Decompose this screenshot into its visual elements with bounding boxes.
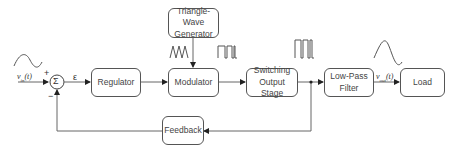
- sine-output-wave: [374, 41, 402, 65]
- sine-input-wave: [14, 55, 42, 67]
- triangle-gen-label: Triangle-WaveGenerator: [169, 6, 218, 40]
- error-label: ε: [73, 72, 77, 82]
- modulator-label: Modulator: [175, 77, 213, 88]
- load-label: Load: [413, 77, 432, 88]
- switching-label: SwitchingOutput Stage: [247, 65, 297, 99]
- minus-sign: −: [48, 91, 53, 101]
- input-signal-label: vin(t): [17, 72, 32, 83]
- regulator-label: Regulator: [98, 77, 135, 88]
- load-block[interactable]: Load: [400, 68, 445, 97]
- lowpass-label: Low-PassFilter: [330, 71, 367, 94]
- summer-sigma: Σ: [53, 76, 59, 86]
- triangle-wave-generator-block[interactable]: Triangle-WaveGenerator: [168, 8, 219, 38]
- triangle-wave: [170, 46, 188, 58]
- feedback-block[interactable]: Feedback: [162, 116, 204, 145]
- output-signal-label: vout(t): [376, 72, 394, 83]
- low-pass-filter-block[interactable]: Low-PassFilter: [324, 68, 374, 97]
- pwm-switching-wave: [295, 40, 314, 58]
- switching-output-stage-block[interactable]: SwitchingOutput Stage: [246, 68, 298, 97]
- pwm-modulator-wave: [218, 46, 237, 58]
- regulator-block[interactable]: Regulator: [91, 68, 141, 97]
- feedback-label: Feedback: [164, 125, 201, 136]
- junction-dot: [309, 80, 312, 83]
- modulator-block[interactable]: Modulator: [168, 68, 219, 97]
- plus-sign: +: [44, 68, 49, 78]
